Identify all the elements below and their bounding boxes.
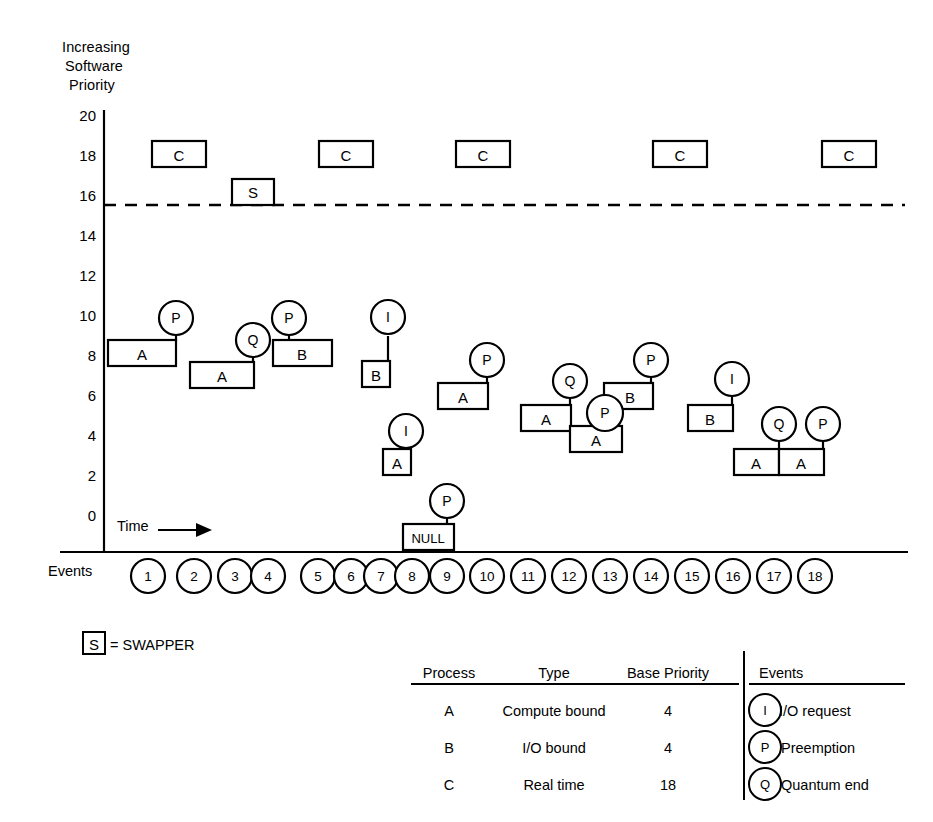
- svg-text:A: A: [591, 432, 601, 449]
- event-circle-10: 10: [470, 559, 504, 593]
- event-circle-2: 2: [177, 559, 211, 593]
- event-circle-12: 12: [552, 559, 586, 593]
- svg-text:A: A: [137, 346, 147, 363]
- svg-text:11: 11: [521, 569, 535, 584]
- svg-text:P: P: [284, 310, 293, 326]
- svg-text:A: A: [458, 389, 468, 406]
- svg-text:P: P: [482, 352, 491, 368]
- block-c-9: C: [456, 141, 510, 167]
- svg-text:C: C: [174, 147, 185, 164]
- block-a-event12: A Q: [521, 364, 587, 431]
- svg-text:I: I: [404, 423, 408, 439]
- time-arrow-icon: [158, 523, 212, 537]
- svg-text:I: I: [763, 703, 767, 718]
- svg-text:3: 3: [231, 569, 239, 584]
- svg-text:9: 9: [443, 569, 451, 584]
- svg-text:A: A: [217, 368, 227, 385]
- legend-circle-preemption: P: [749, 731, 781, 763]
- svg-text:12: 12: [561, 569, 576, 584]
- svg-text:C: C: [341, 147, 352, 164]
- svg-text:NULL: NULL: [411, 531, 444, 546]
- svg-text:A: A: [392, 455, 402, 472]
- event-circle-7: 7: [364, 559, 398, 593]
- svg-text:B: B: [625, 389, 635, 406]
- block-b-event7: B I: [362, 300, 405, 387]
- svg-text:P: P: [761, 740, 770, 755]
- event-circle-4: 4: [251, 559, 285, 593]
- events-legend-symbols: I P Q: [749, 694, 781, 800]
- block-c-17: C: [822, 141, 876, 167]
- svg-text:C: C: [675, 147, 686, 164]
- block-b-event4: B P: [272, 301, 332, 366]
- svg-text:I: I: [730, 371, 734, 387]
- swapper-key-box: S: [83, 632, 105, 654]
- svg-text:1: 1: [144, 569, 152, 584]
- scheduling-diagram-svg: C C C C C S A P: [0, 0, 933, 822]
- svg-text:Q: Q: [248, 332, 259, 348]
- svg-text:A: A: [751, 455, 761, 472]
- event-circle-16: 16: [716, 559, 750, 593]
- svg-text:B: B: [297, 346, 307, 363]
- event-circle-1: 1: [131, 559, 165, 593]
- event-circle-17: 17: [757, 559, 791, 593]
- event-circle-18: 18: [798, 559, 832, 593]
- event-circle-9: 9: [430, 559, 464, 593]
- svg-text:S: S: [248, 184, 258, 201]
- block-null-event8: NULL P: [403, 484, 464, 550]
- svg-text:15: 15: [684, 569, 699, 584]
- svg-text:A: A: [541, 411, 551, 428]
- svg-text:C: C: [478, 147, 489, 164]
- svg-text:2: 2: [190, 569, 198, 584]
- svg-text:5: 5: [314, 569, 322, 584]
- block-a-event7: A I: [383, 414, 423, 475]
- svg-text:P: P: [442, 493, 451, 509]
- block-a-event3: A Q: [190, 323, 270, 388]
- svg-text:6: 6: [347, 569, 355, 584]
- event-circle-3: 3: [218, 559, 252, 593]
- event-circle-6: 6: [334, 559, 368, 593]
- block-c-13: C: [653, 141, 707, 167]
- block-c-1: C: [152, 141, 206, 167]
- block-a-event10: A P: [438, 343, 504, 409]
- svg-text:13: 13: [602, 569, 617, 584]
- svg-text:P: P: [818, 416, 827, 432]
- svg-text:P: P: [600, 405, 609, 421]
- svg-text:Q: Q: [760, 777, 770, 792]
- event-circle-5: 5: [301, 559, 335, 593]
- svg-text:Q: Q: [774, 416, 785, 432]
- diagram-canvas: IncreasingSoftwarePriority 20 18 16 14 1…: [0, 0, 933, 822]
- svg-text:4: 4: [264, 569, 272, 584]
- block-a-event13: A: [570, 426, 622, 452]
- event-circle-15: 15: [675, 559, 709, 593]
- svg-text:8: 8: [408, 569, 416, 584]
- legend-circle-quantum-end: Q: [749, 768, 781, 800]
- block-b-event16: B I: [688, 362, 749, 431]
- svg-text:Q: Q: [565, 373, 576, 389]
- event-circle-11: 11: [511, 559, 545, 593]
- svg-text:7: 7: [377, 569, 385, 584]
- svg-text:17: 17: [766, 569, 781, 584]
- legend-circle-io-request: I: [749, 694, 781, 726]
- block-a-event1: A P: [108, 301, 193, 366]
- svg-text:B: B: [705, 411, 715, 428]
- svg-text:I: I: [386, 309, 390, 325]
- marker-p-event13: P: [587, 395, 623, 431]
- block-c-5: C: [319, 141, 373, 167]
- svg-text:14: 14: [643, 569, 659, 584]
- svg-text:18: 18: [807, 569, 822, 584]
- svg-text:A: A: [796, 455, 806, 472]
- svg-text:C: C: [844, 147, 855, 164]
- table-rules: [411, 651, 905, 800]
- block-s-swapper: S: [232, 179, 274, 205]
- svg-text:P: P: [171, 310, 180, 326]
- event-circle-13: 13: [593, 559, 627, 593]
- svg-text:10: 10: [479, 569, 494, 584]
- svg-text:16: 16: [725, 569, 740, 584]
- svg-text:S: S: [89, 636, 99, 653]
- event-circle-14: 14: [634, 559, 668, 593]
- event-axis-circles: 1 2 3 4 5 6 7 8 9 10 11 12 13 14 15 16 1…: [131, 559, 832, 593]
- event-circle-8: 8: [395, 559, 429, 593]
- svg-text:P: P: [646, 352, 655, 368]
- svg-text:B: B: [371, 367, 381, 384]
